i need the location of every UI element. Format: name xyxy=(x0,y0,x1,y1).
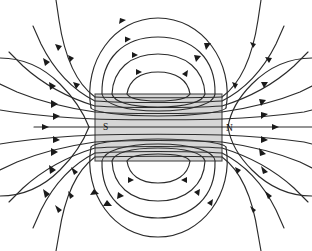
arrow-n-9 xyxy=(265,191,272,199)
north-pole-label: N xyxy=(226,123,233,133)
field-line-canvas: S N xyxy=(0,0,312,251)
magnetic-field-diagram: S N xyxy=(0,0,312,251)
field-line-n-1 xyxy=(222,0,261,97)
field-line-bottom-arch-2 xyxy=(112,161,205,201)
arrow-bot-2 xyxy=(117,192,124,199)
field-line-s-4 xyxy=(0,84,95,112)
field-line-s-8 xyxy=(9,148,95,202)
field-line-n-9 xyxy=(222,153,284,228)
arrow-s-12 xyxy=(71,167,78,175)
field-line-n-4 xyxy=(222,86,312,112)
field-line-n-10 xyxy=(222,157,261,251)
field-line-s-5 xyxy=(0,110,95,119)
arrow-top-6 xyxy=(194,55,201,62)
arrow-bot-3 xyxy=(103,200,112,206)
arrow-s-10 xyxy=(55,205,62,213)
arrow-s-2 xyxy=(43,58,50,66)
field-line-s-3 xyxy=(9,52,95,106)
arrow-n-7 xyxy=(259,148,266,156)
north-pole-field-lines xyxy=(222,0,312,251)
field-line-outer-3 xyxy=(0,127,89,196)
arrow-n-3 xyxy=(261,82,268,88)
arrow-s-5 xyxy=(53,113,60,120)
arrow-top-4 xyxy=(119,18,126,24)
south-pole-field-lines xyxy=(0,0,95,251)
field-line-top-arch-1 xyxy=(127,72,190,94)
field-line-s-1 xyxy=(56,0,95,97)
arrow-bot-4 xyxy=(90,189,99,195)
arrow-top-3 xyxy=(125,37,131,43)
field-line-s-7 xyxy=(0,142,95,170)
arrow-bot-6 xyxy=(194,189,200,196)
arrow-n-12 xyxy=(232,82,238,89)
arrow-top-7 xyxy=(204,43,211,50)
field-line-bottom-arch-1 xyxy=(127,161,190,183)
arrow-bot-7 xyxy=(207,199,213,206)
arrow-top-5 xyxy=(182,70,188,77)
field-line-n-2 xyxy=(222,26,284,101)
field-line-top-arch-3 xyxy=(102,37,215,94)
arrow-s-1 xyxy=(55,44,62,51)
field-line-outer-4 xyxy=(0,58,89,127)
arrow-n-10 xyxy=(250,206,256,213)
arrow-top-1 xyxy=(136,69,142,75)
south-pole-label: S xyxy=(103,122,108,132)
field-line-s-2 xyxy=(33,26,95,101)
arrow-n-axis xyxy=(272,124,279,130)
field-line-s-6 xyxy=(0,135,95,144)
arrow-s-axis xyxy=(42,124,49,130)
arrow-n-5 xyxy=(261,112,268,119)
arrow-s-4 xyxy=(51,100,58,108)
field-line-s-9 xyxy=(33,153,95,228)
arrow-bot-5 xyxy=(181,177,187,183)
field-line-n-7 xyxy=(222,142,312,168)
field-line-bottom-arch-3 xyxy=(102,161,215,218)
field-line-top-arch-2 xyxy=(112,54,205,94)
arrow-bot-1 xyxy=(128,177,134,183)
